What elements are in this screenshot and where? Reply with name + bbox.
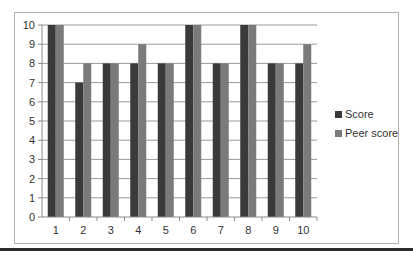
x-tick-label: 6 [190, 224, 196, 236]
bar-score-9 [268, 63, 276, 217]
bar-score-8 [240, 25, 248, 217]
bar-peer-score-2 [83, 63, 91, 217]
bar-score-2 [75, 83, 83, 217]
bar-peer-score-5 [166, 63, 174, 217]
y-tick-label: 3 [29, 153, 35, 165]
bar-score-6 [185, 25, 193, 217]
x-tick-label: 4 [135, 224, 141, 236]
bar-peer-score-1 [56, 25, 64, 217]
bar-score-4 [130, 63, 138, 217]
bar-peer-score-7 [221, 63, 229, 217]
x-axis-ticks: 12345678910 [53, 217, 317, 236]
legend-label-score: Score [345, 108, 374, 120]
y-tick-label: 0 [29, 211, 35, 223]
y-tick-label: 10 [23, 19, 35, 31]
y-tick-label: 1 [29, 192, 35, 204]
bar-peer-score-3 [111, 63, 119, 217]
legend-swatch-peer-score [335, 130, 342, 137]
legend-label-peer-score: Peer score [345, 127, 398, 139]
y-tick-label: 7 [29, 77, 35, 89]
x-tick-label: 7 [218, 224, 224, 236]
legend: ScorePeer score [335, 108, 398, 139]
bar-score-1 [48, 25, 56, 217]
legend-swatch-score [335, 111, 342, 118]
bar-peer-score-8 [248, 25, 256, 217]
y-tick-label: 6 [29, 96, 35, 108]
y-tick-label: 4 [29, 134, 35, 146]
bar-peer-score-9 [276, 63, 284, 217]
bar-peer-score-6 [193, 25, 201, 217]
x-tick-label: 2 [80, 224, 86, 236]
x-tick-label: 1 [53, 224, 59, 236]
bar-peer-score-10 [303, 44, 311, 217]
bar-score-7 [213, 63, 221, 217]
bar-score-10 [295, 63, 303, 217]
x-tick-label: 10 [297, 224, 309, 236]
x-tick-label: 3 [108, 224, 114, 236]
y-tick-label: 5 [29, 115, 35, 127]
x-tick-label: 9 [273, 224, 279, 236]
bar-peer-score-4 [138, 44, 146, 217]
bar-chart: 012345678910 12345678910 ScorePeer score [0, 0, 413, 259]
y-tick-label: 8 [29, 57, 35, 69]
x-tick-label: 5 [163, 224, 169, 236]
x-tick-label: 8 [245, 224, 251, 236]
y-tick-label: 2 [29, 173, 35, 185]
bar-score-5 [158, 63, 166, 217]
y-tick-label: 9 [29, 38, 35, 50]
y-axis-ticks: 012345678910 [23, 19, 42, 223]
bar-score-3 [103, 63, 111, 217]
